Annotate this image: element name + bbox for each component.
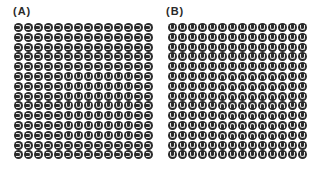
c-shape-icon [16,64,21,69]
u-shape-icon [200,113,205,118]
background-disc [188,23,197,32]
u-shape-icon [240,45,245,50]
inverted-u-shape-icon [280,74,285,79]
c-shape-icon [106,35,111,40]
u-shape-icon [260,143,265,148]
background-disc [14,150,23,159]
u-shape-icon [76,123,81,128]
c-shape-icon [46,103,51,108]
target-disc [94,111,103,120]
u-shape-icon [220,54,225,59]
u-shape-icon [106,133,111,138]
background-disc [198,150,207,159]
c-shape-icon [36,143,41,148]
c-shape-icon [46,74,51,79]
u-shape-icon [240,25,245,30]
u-shape-icon [126,123,131,128]
background-disc [288,150,297,159]
background-disc [198,111,207,120]
u-shape-icon [290,133,295,138]
u-shape-icon [170,64,175,69]
background-disc [74,52,83,61]
background-disc [178,121,187,130]
u-shape-icon [250,35,255,40]
c-shape-icon [116,54,121,59]
inverted-u-shape-icon [260,94,265,99]
c-shape-icon [56,152,61,157]
background-disc [198,33,207,42]
u-shape-icon [180,94,185,99]
c-shape-icon [56,35,61,40]
background-disc [114,23,123,32]
background-disc [298,62,307,71]
inverted-u-shape-icon [250,133,255,138]
c-shape-icon [136,143,141,148]
c-shape-icon [86,54,91,59]
u-shape-icon [230,54,235,59]
u-shape-icon [290,123,295,128]
c-shape-icon [116,25,121,30]
background-disc [168,121,177,130]
target-disc [278,121,287,130]
background-disc [54,52,63,61]
c-shape-icon [146,35,151,40]
background-disc [144,23,153,32]
background-disc [288,52,297,61]
u-shape-icon [190,133,195,138]
inverted-u-shape-icon [240,133,245,138]
background-disc [248,23,257,32]
background-disc [44,72,53,81]
c-shape-icon [126,64,131,69]
inverted-u-shape-icon [270,84,275,89]
target-disc [84,111,93,120]
background-disc [218,150,227,159]
c-shape-icon [36,103,41,108]
background-disc [258,23,267,32]
background-disc [124,43,133,52]
target-disc [64,82,73,91]
c-shape-icon [136,133,141,138]
c-shape-icon [16,103,21,108]
c-shape-icon [16,84,21,89]
c-shape-icon [146,74,151,79]
background-disc [188,150,197,159]
inverted-u-shape-icon [240,74,245,79]
background-disc [298,23,307,32]
target-disc [228,131,237,140]
target-disc [218,111,227,120]
background-disc [14,141,23,150]
u-shape-icon [250,152,255,157]
c-shape-icon [46,84,51,89]
c-shape-icon [56,123,61,128]
u-shape-icon [290,74,295,79]
target-disc [114,92,123,101]
c-shape-icon [36,94,41,99]
c-shape-icon [76,25,81,30]
background-disc [268,33,277,42]
u-shape-icon [106,113,111,118]
target-disc [104,111,113,120]
background-disc [104,23,113,32]
target-disc [228,82,237,91]
c-shape-icon [16,54,21,59]
background-disc [124,62,133,71]
background-disc [134,72,143,81]
u-shape-icon [180,103,185,108]
u-shape-icon [180,133,185,138]
c-shape-icon [146,54,151,59]
background-disc [14,23,23,32]
background-disc [178,141,187,150]
u-shape-icon [190,74,195,79]
target-disc [228,101,237,110]
target-disc [238,72,247,81]
background-disc [198,141,207,150]
background-disc [64,52,73,61]
background-disc [34,23,43,32]
background-disc [44,92,53,101]
u-shape-icon [240,143,245,148]
target-disc [64,111,73,120]
background-disc [94,43,103,52]
c-shape-icon [146,94,151,99]
c-shape-icon [146,113,151,118]
c-shape-icon [46,133,51,138]
